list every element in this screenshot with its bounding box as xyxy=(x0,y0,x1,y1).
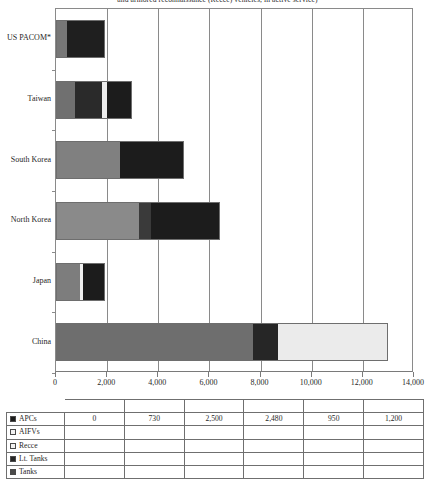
bar-segment-apcs xyxy=(120,142,183,178)
bar-segment-apcs xyxy=(83,264,104,300)
legend-table-cell xyxy=(244,439,304,452)
bar-segment-lt-tanks xyxy=(75,82,102,118)
legend-table-cell xyxy=(244,426,304,439)
bar-segment-tanks xyxy=(57,203,139,239)
legend-table-spacer-row xyxy=(7,400,424,413)
legend-swatch-icon xyxy=(10,469,16,475)
legend-label: Recce xyxy=(19,441,38,450)
legend-table-cell xyxy=(124,465,184,478)
x-axis-labels: 02,0004,0006,0008,00010,00012,00014,000 xyxy=(0,378,435,390)
bar-north-korea xyxy=(56,202,220,240)
bar-south-korea xyxy=(56,141,184,179)
bar-segment-tanks xyxy=(57,264,80,300)
legend-table-cell: 950 xyxy=(304,413,364,426)
category-row xyxy=(56,9,412,70)
legend-table-blank-cell xyxy=(7,400,65,413)
category-row xyxy=(56,130,412,191)
category-row xyxy=(56,70,412,131)
y-axis-label: Japan xyxy=(0,276,51,285)
legend-label: Tanks xyxy=(19,467,37,476)
x-axis-tick xyxy=(208,372,209,377)
legend-entry-tanks[interactable]: Tanks xyxy=(7,465,65,478)
x-axis-tick xyxy=(55,372,56,377)
bar-segment-tanks xyxy=(57,82,75,118)
y-axis-label: Taiwan xyxy=(0,94,51,103)
legend-table-cell xyxy=(364,439,424,452)
legend-table-row[interactable]: Recce xyxy=(7,439,424,452)
legend-label: Lt. Tanks xyxy=(19,454,47,463)
x-axis-tick-label: 2,000 xyxy=(97,378,115,388)
legend-table-cell xyxy=(184,465,244,478)
legend-table-cell xyxy=(65,426,125,439)
legend-table-cell: 0 xyxy=(65,413,125,426)
bar-segment-aifvs xyxy=(278,324,387,360)
y-axis-label: North Korea xyxy=(0,215,51,224)
legend-table-cell xyxy=(304,452,364,465)
x-axis-tick-label: 10,000 xyxy=(300,378,322,388)
bar-japan xyxy=(56,263,105,301)
bar-segment-apcs xyxy=(151,203,219,239)
legend-table-header-cell xyxy=(244,400,304,413)
legend-table-row[interactable]: APCs07302,5002,4809501,200 xyxy=(7,413,424,426)
bar-segment-tanks xyxy=(57,21,67,57)
legend-table-cell: 2,500 xyxy=(184,413,244,426)
legend-label: APCs xyxy=(19,414,37,423)
chart-title: and armored reconnaissance (Recce) vehic… xyxy=(0,0,435,4)
x-axis-tick xyxy=(311,372,312,377)
bar-segment-lt-tanks xyxy=(139,203,151,239)
x-axis-tick-label: 8,000 xyxy=(251,378,269,388)
x-axis-tick xyxy=(106,372,107,377)
y-axis-labels: US PACOM*TaiwanSouth KoreaNorth KoreaJap… xyxy=(0,8,51,372)
y-axis-label: China xyxy=(0,337,51,346)
legend-table-cell xyxy=(124,426,184,439)
legend-table-cell xyxy=(364,465,424,478)
bar-segment-tanks xyxy=(57,324,253,360)
legend-table-cell xyxy=(184,426,244,439)
legend-data-table: APCs07302,5002,4809501,200AIFVsRecceLt. … xyxy=(6,399,424,479)
legend-table-header-cell xyxy=(124,400,184,413)
legend-table-row[interactable]: AIFVs xyxy=(7,426,424,439)
x-axis-tick xyxy=(413,372,414,377)
legend-entry-apcs[interactable]: APCs xyxy=(7,413,65,426)
legend-table-row[interactable]: Lt. Tanks xyxy=(7,452,424,465)
y-axis-label: US PACOM* xyxy=(0,33,51,42)
plot-area xyxy=(55,8,413,372)
bar-segment-apcs xyxy=(67,21,104,57)
legend-table-cell xyxy=(364,452,424,465)
legend-table-cell xyxy=(304,439,364,452)
category-row xyxy=(56,252,412,313)
legend-table-cell xyxy=(124,452,184,465)
category-row xyxy=(56,312,412,373)
x-axis-tick xyxy=(260,372,261,377)
category-row xyxy=(56,191,412,252)
legend-table-cell xyxy=(184,439,244,452)
bar-segment-lt-tanks xyxy=(253,324,278,360)
legend-entry-aifvs[interactable]: AIFVs xyxy=(7,426,65,439)
legend-table-header-cell xyxy=(304,400,364,413)
legend-table-cell xyxy=(65,439,125,452)
legend-table-cell xyxy=(124,439,184,452)
legend-entry-recce[interactable]: Recce xyxy=(7,439,65,452)
legend-table-body: APCs07302,5002,4809501,200AIFVsRecceLt. … xyxy=(7,400,424,479)
legend-entry-lt-tanks[interactable]: Lt. Tanks xyxy=(7,452,65,465)
legend-table-header-cell xyxy=(184,400,244,413)
legend-swatch-icon xyxy=(10,443,16,449)
legend-table-cell: 2,480 xyxy=(244,413,304,426)
legend-table-cell: 730 xyxy=(124,413,184,426)
legend-label: AIFVs xyxy=(19,427,40,436)
x-axis-tick-label: 14,000 xyxy=(402,378,424,388)
legend-table-cell xyxy=(65,465,125,478)
legend-table-header-cell xyxy=(364,400,424,413)
x-axis-tick-label: 12,000 xyxy=(351,378,373,388)
legend-table-row[interactable]: Tanks xyxy=(7,465,424,478)
y-axis-label: South Korea xyxy=(0,155,51,164)
bar-segment-apcs xyxy=(107,82,132,118)
x-axis-tick-label: 4,000 xyxy=(148,378,166,388)
legend-table-header-cell xyxy=(65,400,125,413)
legend-table-cell xyxy=(65,452,125,465)
bar-taiwan xyxy=(56,81,132,119)
legend-table-cell xyxy=(184,452,244,465)
bar-segment-tanks xyxy=(57,142,120,178)
bar-us-pacom xyxy=(56,20,105,58)
x-axis-tick-label: 6,000 xyxy=(199,378,217,388)
